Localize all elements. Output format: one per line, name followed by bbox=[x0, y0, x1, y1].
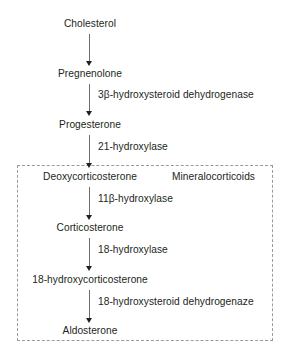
arrow-pregnenolone-to-progesterone bbox=[85, 84, 94, 116]
node-corticosterone: Corticosterone bbox=[0, 222, 180, 234]
node-aldosterone: Aldosterone bbox=[0, 325, 180, 337]
pathway-diagram: Cholesterol Pregnenolone 3β-hydroxystero… bbox=[0, 0, 289, 358]
arrow-cholesterol-to-pregnenolone bbox=[85, 34, 94, 66]
enzyme-3beta-hydroxysteroid-dehydrogenase: 3β-hydroxysteroid dehydrogenase bbox=[98, 89, 254, 101]
arrow-corticosterone-to-18-hydroxycorticosterone bbox=[85, 238, 94, 271]
node-pregnenolone: Pregnenolone bbox=[0, 68, 180, 80]
enzyme-18-hydroxysteroid-dehydrogenaze: 18-hydroxysteroid dehydrogenaze bbox=[98, 296, 254, 308]
node-deoxycorticosterone: Deoxycorticosterone bbox=[0, 171, 180, 183]
enzyme-21-hydroxylase: 21-hydroxylase bbox=[98, 141, 168, 153]
arrow-deoxycorticosterone-to-corticosterone bbox=[85, 187, 94, 220]
node-18-hydroxycorticosterone: 18-hydroxycorticosterone bbox=[0, 274, 180, 286]
node-cholesterol: Cholesterol bbox=[0, 18, 180, 30]
arrow-18-hydroxycorticosterone-to-aldosterone bbox=[85, 290, 94, 323]
mineralocorticoids-group-label: Mineralocorticoids bbox=[172, 171, 255, 183]
node-progesterone: Progesterone bbox=[0, 119, 180, 131]
arrow-progesterone-to-deoxycorticosterone bbox=[85, 135, 94, 168]
enzyme-18-hydroxylase: 18-hydroxylase bbox=[98, 244, 168, 256]
enzyme-11beta-hydroxylase: 11β-hydroxylase bbox=[98, 193, 173, 205]
